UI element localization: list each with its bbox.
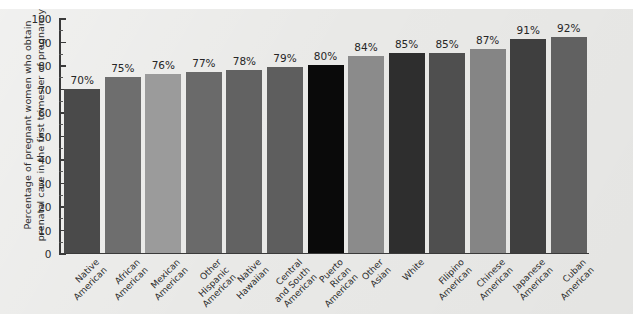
bar bbox=[551, 37, 587, 253]
y-tick-label: 70 bbox=[38, 84, 51, 96]
bar-value-label: 91% bbox=[517, 24, 540, 36]
bar-group: 77% bbox=[186, 18, 222, 253]
bar-group: 87% bbox=[470, 18, 506, 253]
bar bbox=[267, 67, 303, 253]
y-tick-label: 20 bbox=[38, 201, 51, 213]
bar-value-label: 85% bbox=[395, 38, 418, 50]
bar-value-label: 87% bbox=[476, 34, 499, 46]
bar-group: 79% bbox=[267, 18, 303, 253]
bar bbox=[186, 72, 222, 253]
y-tick-label: 60 bbox=[38, 107, 51, 119]
y-tick-label: 30 bbox=[38, 178, 51, 190]
bar-value-label: 70% bbox=[71, 74, 94, 86]
bar-value-label: 75% bbox=[111, 62, 134, 74]
bar-chart-figure: Percentage of pregnant women who obtain … bbox=[0, 0, 633, 327]
y-tick-label: 100 bbox=[31, 13, 51, 25]
bar bbox=[348, 56, 384, 253]
bar-group: 91% bbox=[510, 18, 546, 253]
bar-group: 85% bbox=[389, 18, 425, 253]
bar-value-label: 77% bbox=[192, 57, 215, 69]
bar bbox=[105, 77, 141, 253]
y-tick-0: 0 bbox=[59, 253, 66, 254]
bar-value-label: 78% bbox=[233, 55, 256, 67]
bar bbox=[308, 65, 344, 253]
bar bbox=[226, 70, 262, 253]
y-tick-label: 90 bbox=[38, 37, 51, 49]
bar bbox=[470, 49, 506, 253]
bar bbox=[429, 53, 465, 253]
bar bbox=[389, 53, 425, 253]
bar-group: 78% bbox=[226, 18, 262, 253]
bar-value-label: 79% bbox=[273, 52, 296, 64]
bar-group: 85% bbox=[429, 18, 465, 253]
bars-layer: 70%75%76%77%78%79%80%84%85%85%87%91%92% bbox=[62, 18, 589, 253]
plot-area: 0102030405060708090100 70%75%76%77%78%79… bbox=[59, 18, 589, 254]
bar-group: 70% bbox=[64, 18, 100, 253]
x-axis-category-labels: Native AmericanAfrican AmericanMexican A… bbox=[59, 257, 599, 327]
bar-value-label: 92% bbox=[557, 22, 580, 34]
y-tick-label: 40 bbox=[38, 154, 51, 166]
bar bbox=[64, 89, 100, 254]
y-tick-label: 80 bbox=[38, 60, 51, 72]
bar-group: 92% bbox=[551, 18, 587, 253]
bar-group: 75% bbox=[105, 18, 141, 253]
bar-value-label: 85% bbox=[435, 38, 458, 50]
y-tick-label: 10 bbox=[38, 225, 51, 237]
bar-value-label: 84% bbox=[354, 41, 377, 53]
bar-value-label: 76% bbox=[152, 59, 175, 71]
bar-group: 84% bbox=[348, 18, 384, 253]
y-tick-label: 0 bbox=[45, 248, 52, 260]
bar bbox=[510, 39, 546, 253]
bar-value-label: 80% bbox=[314, 50, 337, 62]
bar-group: 76% bbox=[145, 18, 181, 253]
bar-group: 80% bbox=[308, 18, 344, 253]
bar bbox=[145, 74, 181, 253]
y-tick-label: 50 bbox=[38, 131, 51, 143]
